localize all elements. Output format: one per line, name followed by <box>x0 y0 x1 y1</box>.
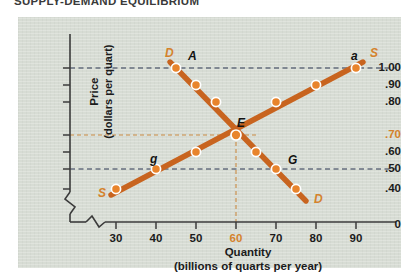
x-tick-label-80: 80 <box>296 233 336 245</box>
figure-title: SUPPLY-DEMAND EQUILIBRIUM <box>14 0 199 7</box>
supply-point-80[interactable] <box>311 80 320 89</box>
chart-panel: 1.00 .90 .80 .70 .60 .50 .40 0 30 40 50 … <box>18 17 401 268</box>
demand-point-70[interactable] <box>271 164 280 173</box>
point-label-g: g <box>150 153 157 165</box>
supply-point-70[interactable] <box>271 97 280 106</box>
y-axis-title-line1: Price <box>88 78 100 106</box>
x-tick-label-40: 40 <box>136 233 176 245</box>
y-tick-label-60: .60 <box>357 146 401 158</box>
point-label-E: E <box>237 117 245 129</box>
figure-root: SUPPLY-DEMAND EQUILIBRIUM <box>0 0 419 279</box>
y-tick-label-50: .50 <box>357 163 401 175</box>
y-origin-label: 0 <box>357 219 401 231</box>
demand-point-50[interactable] <box>191 80 200 89</box>
plot-area: 1.00 .90 .80 .70 .60 .50 .40 0 30 40 50 … <box>18 17 401 268</box>
point-label-G: G <box>288 154 297 166</box>
demand-point-45[interactable] <box>171 63 180 72</box>
y-tick-label-90: .90 <box>357 79 401 91</box>
x-tick-label-30: 30 <box>96 233 136 245</box>
y-axis-break <box>65 192 75 214</box>
x-axis-break <box>86 216 105 227</box>
x-tick-label-60: 60 <box>216 233 256 245</box>
y-tick-label-80: .80 <box>357 96 401 108</box>
supply-curve-label-bottom: S <box>98 187 106 199</box>
supply-point-50[interactable] <box>191 147 200 156</box>
supply-point-30[interactable] <box>111 184 120 193</box>
y-tick-label-40: .40 <box>357 183 401 195</box>
x-axis-title-line2: (billions of quarts per year) <box>174 260 322 272</box>
guide-lines <box>70 68 396 222</box>
demand-point-75[interactable] <box>291 184 300 193</box>
y-axis-title-line2: (dollars per quart) <box>103 45 115 139</box>
x-axis-title-line1: Quantity <box>225 246 272 258</box>
y-axis-ticks <box>63 68 70 189</box>
supply-curve-label-top: S <box>370 47 378 59</box>
x-tick-label-90: 90 <box>336 233 376 245</box>
point-label-A: A <box>188 50 197 62</box>
y-tick-label-70: .70 <box>357 129 401 141</box>
x-tick-label-50: 50 <box>176 233 216 245</box>
y-axis-title: Price (dollars per quart) <box>87 32 116 152</box>
x-axis-title: Quantity (billions of quarts per year) <box>128 245 368 274</box>
demand-curve-label-bottom: D <box>314 193 323 205</box>
x-axis-ticks <box>116 222 356 229</box>
equilibrium-point[interactable] <box>231 130 241 140</box>
point-label-a: a <box>351 50 358 62</box>
demand-point-55[interactable] <box>211 97 220 106</box>
demand-curve-label-top: D <box>165 47 174 59</box>
y-tick-label-100: 1.00 <box>357 62 401 74</box>
demand-point-65[interactable] <box>251 147 260 156</box>
x-tick-label-70: 70 <box>256 233 296 245</box>
chart-svg <box>18 17 401 268</box>
